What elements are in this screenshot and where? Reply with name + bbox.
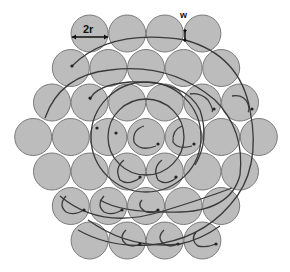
circle-packing-diagram: 2r w bbox=[0, 0, 290, 272]
packed-circle bbox=[52, 50, 89, 87]
packed-circle bbox=[34, 153, 71, 190]
gap-label: w bbox=[179, 10, 188, 20]
packed-circle bbox=[240, 119, 277, 156]
packed-circle bbox=[128, 188, 165, 225]
packed-circle bbox=[203, 50, 240, 87]
packed-circle bbox=[109, 222, 146, 259]
packed-circle bbox=[165, 188, 202, 225]
packed-circle bbox=[146, 15, 183, 52]
packed-circle bbox=[165, 50, 202, 87]
packed-circle bbox=[90, 50, 127, 87]
packed-circle bbox=[15, 119, 52, 156]
packed-circle bbox=[52, 119, 89, 156]
packed-circle bbox=[109, 15, 146, 52]
packed-circle bbox=[203, 188, 240, 225]
diameter-label: 2r bbox=[83, 23, 94, 35]
packed-circle bbox=[146, 222, 183, 259]
packed-circle bbox=[52, 188, 89, 225]
packed-circle bbox=[184, 222, 221, 259]
packed-circle bbox=[203, 119, 240, 156]
packed-circle bbox=[90, 188, 127, 225]
packed-circle bbox=[128, 119, 165, 156]
